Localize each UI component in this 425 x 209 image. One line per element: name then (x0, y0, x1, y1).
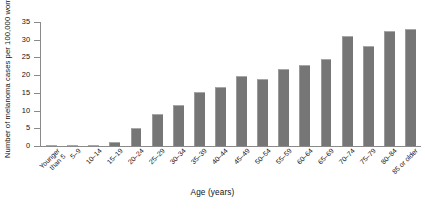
y-axis-tick-label: 35 (0, 18, 30, 26)
bar (131, 128, 142, 146)
bar (278, 69, 289, 146)
y-axis-tick (34, 128, 40, 129)
y-axis-tick-label: 20 (0, 71, 30, 79)
y-axis-tick (34, 75, 40, 76)
bar (342, 36, 353, 146)
y-axis-tick-label: 0 (0, 142, 30, 150)
y-axis-tick-label: 25 (0, 53, 30, 61)
bar (257, 79, 268, 146)
bar (109, 142, 120, 146)
y-axis-tick (34, 40, 40, 41)
x-axis-title: Age (years) (0, 188, 425, 197)
bar (384, 31, 395, 146)
bar (236, 76, 247, 146)
bar (405, 29, 416, 146)
y-axis-tick-label: 15 (0, 89, 30, 97)
bar (215, 87, 226, 146)
y-axis-tick-label: 10 (0, 107, 30, 115)
bar (152, 114, 163, 146)
y-axis-tick (34, 22, 40, 23)
melanoma-bar-chart: Number of melanoma cases per 100,000 wom… (0, 0, 425, 209)
y-axis-title: Number of melanoma cases per 100,000 wom… (2, 8, 14, 158)
y-axis-tick (34, 93, 40, 94)
y-axis-tick (34, 57, 40, 58)
bar (321, 59, 332, 146)
bars-container (41, 22, 421, 146)
bar (363, 46, 374, 146)
x-axis-tick-labels: Younger than 55–910–1415–1920–2425–2930–… (41, 147, 421, 209)
bar (299, 65, 310, 146)
y-axis-tick (34, 146, 40, 147)
bar (173, 105, 184, 146)
bar (194, 92, 205, 146)
y-axis-tick-label: 5 (0, 124, 30, 132)
y-axis-tick (34, 111, 40, 112)
y-axis-tick-label: 30 (0, 36, 30, 44)
